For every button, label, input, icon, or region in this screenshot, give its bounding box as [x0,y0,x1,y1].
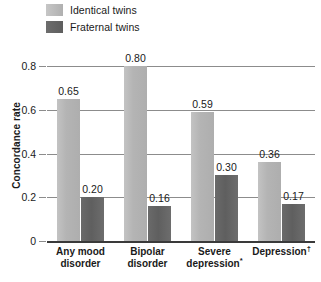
legend-label-fraternal-twins: Fraternal twins [70,21,140,33]
y-axis-tick [39,110,46,111]
legend-swatch-identical-twins [46,4,63,16]
bar-value-label: 0.80 [125,52,145,64]
y-axis-tick [39,197,46,198]
y-axis-tick [39,66,46,67]
bar-value-label: 0.36 [259,148,279,160]
bar-chart: Identical twins Fraternal twins Concorda… [0,0,321,282]
bar-value-label: 0.17 [283,190,303,202]
x-axis-label-2: Severedepression* [181,246,248,269]
y-axis-tick-label: 0 [30,235,36,247]
y-axis-tick-label: 0.8 [21,60,36,72]
y-axis-tick-label: 0.6 [21,104,36,116]
bar-fraternal-0: 0.20 [81,197,104,241]
x-axis-label-1: Bipolardisorder [114,246,181,269]
legend-label-identical-twins: Identical twins [70,4,137,16]
bar-identical-1: 0.80 [124,66,147,241]
chart-legend: Identical twins Fraternal twins [46,3,226,37]
x-axis-label-line: Bipolar [114,246,181,258]
x-axis-label-line: Depression† [248,246,315,258]
bar-fraternal-1: 0.16 [148,206,171,241]
legend-item-identical-twins: Identical twins [46,3,226,17]
bar-identical-2: 0.59 [191,112,214,241]
bar-value-label: 0.65 [58,85,78,97]
bar-identical-3: 0.36 [258,162,281,241]
x-axis-category-labels: Any mooddisorderBipolardisorderSeveredep… [47,246,315,280]
bar-identical-0: 0.65 [57,99,80,241]
legend-swatch-fraternal-twins [46,21,63,33]
bar-value-label: 0.16 [149,192,169,204]
x-axis-label-line: Any mood [47,246,114,258]
bar-value-label: 0.59 [192,98,212,110]
plot-area: 00.20.40.60.8 0.650.200.800.160.590.300.… [47,66,315,241]
x-axis-label-line: depression* [181,258,248,270]
bar-fraternal-3: 0.17 [282,204,305,241]
x-axis-label-line: disorder [114,258,181,270]
y-axis-tick-label: 0.4 [21,148,36,160]
x-axis-label-line: disorder [47,258,114,270]
gridline [47,66,315,67]
bar-value-label: 0.30 [216,161,236,173]
x-axis-label-line: Severe [181,246,248,258]
y-axis-tick-label: 0.2 [21,191,36,203]
y-axis-tick [39,154,46,155]
y-axis-tick [39,241,46,242]
bar-fraternal-2: 0.30 [215,175,238,241]
x-axis-label-3: Depression† [248,246,315,258]
x-axis-label-0: Any mooddisorder [47,246,114,269]
bar-value-label: 0.20 [82,183,102,195]
gridline [47,241,315,243]
legend-item-fraternal-twins: Fraternal twins [46,20,226,34]
gridline [47,110,315,111]
y-axis-title: Concordance rate [11,81,22,211]
